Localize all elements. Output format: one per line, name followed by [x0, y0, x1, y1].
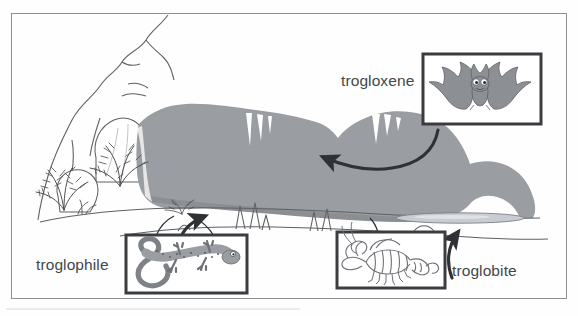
- troglobite-box[interactable]: [337, 222, 445, 288]
- cave-pool: [396, 213, 524, 223]
- label-trogloxene: trogloxene: [341, 72, 414, 90]
- trogloxene-box[interactable]: [423, 54, 541, 124]
- label-troglophile: troglophile: [36, 256, 109, 274]
- troglophile-box[interactable]: [126, 235, 247, 293]
- label-troglobite: troglobite: [452, 262, 517, 280]
- figure-canvas: trogloxene troglophile troglobite: [0, 0, 578, 316]
